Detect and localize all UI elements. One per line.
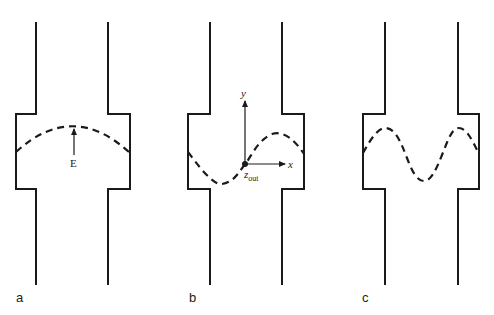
x-axis-label: x — [287, 158, 293, 170]
cavity-left-wall — [16, 22, 36, 285]
panel-a: E a — [16, 22, 130, 305]
panel-b: y x zout b — [188, 22, 304, 305]
cavity-right-wall — [282, 22, 304, 285]
cavity-right-wall — [458, 22, 479, 285]
cavity-right-wall — [108, 22, 130, 285]
panel-label-b: b — [189, 290, 196, 305]
panel-label-a: a — [16, 290, 24, 305]
y-axis-label: y — [240, 87, 246, 99]
cavity-left-wall — [363, 22, 385, 285]
field-profile-one-and-half-wave — [363, 128, 479, 181]
z-axis-out-dot — [242, 161, 248, 167]
z-axis-label: zout — [243, 168, 259, 183]
panel-c: c — [362, 22, 479, 305]
cavity-left-wall — [188, 22, 210, 285]
panel-label-c: c — [362, 290, 369, 305]
e-field-label: E — [70, 157, 77, 169]
field-profile-half-wave — [16, 126, 130, 153]
cavity-mode-diagram: E a y x zout b c — [0, 0, 494, 315]
